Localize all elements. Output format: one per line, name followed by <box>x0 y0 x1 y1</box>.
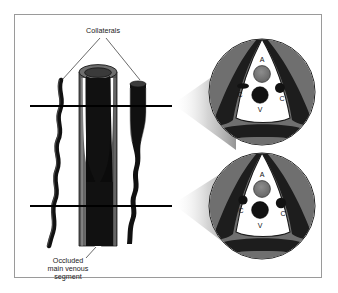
collateral-upper-left <box>237 83 249 89</box>
illustration-canvas: A V C C A V C C C <box>0 0 338 293</box>
label-collaterals: Collaterals <box>86 26 120 35</box>
occluded-leader-line <box>86 247 96 258</box>
label-occluded-line3: segment <box>54 272 82 281</box>
main-venous-segment <box>79 65 117 246</box>
label-collateral-upper-left: C <box>237 91 242 98</box>
label-vein-lower: V <box>258 222 263 229</box>
collateral-lower-left <box>238 195 247 204</box>
label-collateral-lower-right: C <box>280 210 285 217</box>
vein-lower <box>252 202 269 219</box>
vein-upper <box>252 87 268 103</box>
label-vein-upper: V <box>258 106 263 113</box>
label-collateral-upper-right: C <box>279 95 284 102</box>
collateral-upper-right <box>275 83 285 93</box>
collateral-lower-right <box>276 198 286 208</box>
artery-upper <box>254 66 271 83</box>
label-collateral-lower-left: C <box>238 207 243 214</box>
cross-section-lower: A V C C <box>208 152 316 264</box>
artery-lower <box>254 181 271 198</box>
label-artery-upper: A <box>260 56 265 63</box>
label-artery-lower: A <box>260 171 265 178</box>
medical-illustration-figure: A V C C A V C C C <box>0 0 338 293</box>
